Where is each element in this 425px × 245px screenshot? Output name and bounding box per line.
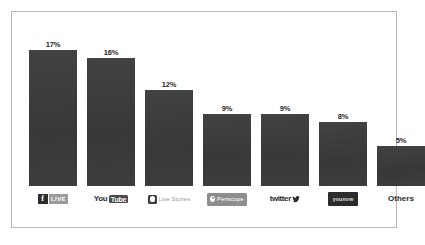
- bar-value-label: 16%: [104, 49, 118, 57]
- category-label-younow: younow: [319, 191, 367, 207]
- bar-group-snapchat-live-stories: 12%: [145, 79, 193, 186]
- bar-rect: [29, 50, 77, 186]
- bar-value-label: 8%: [338, 113, 348, 121]
- bar-rect: [145, 90, 193, 186]
- twitter-bird-icon: [292, 195, 300, 203]
- snapchat-ghost-icon: Live Stories: [148, 194, 190, 205]
- live-stories-text: Live Stories: [159, 196, 190, 202]
- bar-rect: [87, 58, 135, 186]
- younow-wordmark: younow: [333, 197, 354, 202]
- bar-group-others: 5%: [377, 135, 425, 186]
- category-label-youtube: You Tube: [87, 191, 135, 207]
- facebook-live-badge: LIVE: [49, 194, 69, 204]
- category-label-periscope: Periscope: [203, 191, 251, 207]
- category-label-facebook-live: f LIVE: [29, 191, 77, 207]
- younow-icon: younow: [328, 192, 359, 206]
- youtube-icon: You Tube: [94, 194, 129, 205]
- bar-value-label: 17%: [46, 41, 60, 49]
- twitter-icon: twitter: [270, 194, 301, 205]
- bar-rect: [203, 114, 251, 186]
- category-label-snapchat-live-stories: Live Stories: [145, 191, 193, 207]
- youtube-you-text: You: [94, 195, 108, 203]
- periscope-icon: Periscope: [207, 193, 246, 206]
- map-pin-icon: [210, 196, 215, 203]
- chart-frame: 17% f LIVE 16% You Tube 12%: [11, 11, 397, 228]
- bar-chart-plot-area: 17% f LIVE 16% You Tube 12%: [12, 12, 396, 227]
- bar-rect: [377, 146, 425, 186]
- others-label: Others: [388, 194, 414, 205]
- category-label-others: Others: [377, 191, 425, 207]
- bar-value-label: 9%: [222, 105, 232, 113]
- twitter-wordmark: twitter: [270, 195, 291, 203]
- bar-group-younow: 8%: [319, 111, 367, 186]
- bar-value-label: 12%: [162, 81, 176, 89]
- bar-group-facebook-live: 17%: [29, 39, 77, 186]
- facebook-live-icon: f LIVE: [38, 194, 69, 205]
- facebook-f-icon: f: [38, 194, 48, 204]
- bar-group-twitter: 9%: [261, 103, 309, 186]
- bar-group-youtube: 16%: [87, 47, 135, 186]
- bar-group-periscope: 9%: [203, 103, 251, 186]
- ghost-glyph: [148, 195, 157, 204]
- category-label-twitter: twitter: [261, 191, 309, 207]
- bar-rect: [261, 114, 309, 186]
- others-text: Others: [388, 195, 414, 203]
- periscope-text: Periscope: [217, 196, 244, 202]
- bar-rect: [319, 122, 367, 186]
- bar-value-label: 5%: [396, 137, 406, 145]
- youtube-tube-badge: Tube: [109, 195, 128, 203]
- bar-value-label: 9%: [280, 105, 290, 113]
